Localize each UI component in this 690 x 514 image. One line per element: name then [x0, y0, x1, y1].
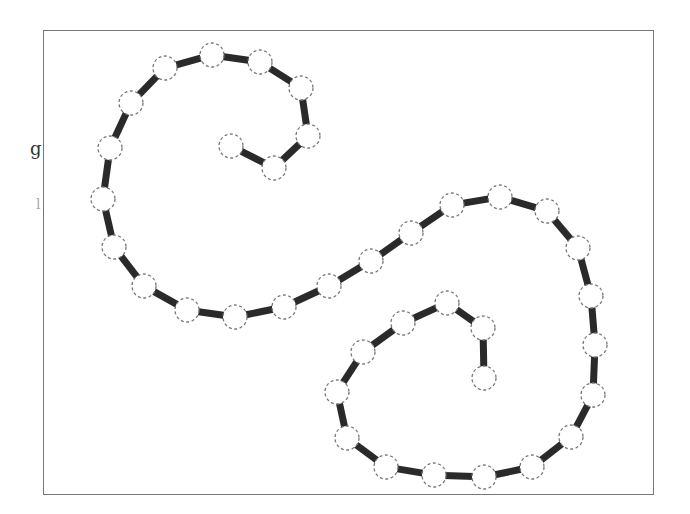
chain-node: [102, 235, 126, 259]
connector-segment: [592, 306, 594, 335]
chain-node: [566, 236, 590, 260]
connector-segment: [245, 309, 274, 315]
chain-node: [440, 193, 464, 217]
connector-segment: [175, 58, 203, 66]
connector-segment: [455, 309, 475, 323]
connector-segment: [593, 355, 594, 385]
connector-segment: [153, 291, 179, 305]
chain-node: [132, 274, 156, 298]
connector-segment: [494, 469, 522, 475]
chain-node: [296, 124, 320, 148]
connector-segment: [581, 258, 589, 287]
connector-segment: [114, 112, 127, 139]
connector-segment: [105, 209, 112, 238]
connector-segment: [540, 443, 563, 461]
chain-node: [175, 298, 199, 322]
connector-segment: [281, 143, 300, 161]
chain-node: [219, 134, 243, 158]
connector-segment: [576, 404, 589, 428]
connector-segment: [396, 469, 424, 474]
chain-node: [471, 316, 495, 340]
chain-node: [153, 56, 177, 80]
chain-node: [351, 340, 375, 364]
connector-segment: [371, 329, 395, 346]
connector-segment: [444, 475, 474, 476]
connector-segment: [483, 338, 484, 368]
chain-node: [200, 43, 224, 67]
connector-segment: [553, 219, 571, 241]
connector-segment: [240, 151, 265, 164]
chain-node: [583, 333, 607, 357]
chain-node: [335, 426, 359, 450]
chain-node: [472, 465, 496, 489]
connector-segment: [355, 444, 378, 461]
chain-node: [422, 463, 446, 487]
connector-segment: [338, 266, 363, 281]
chain-node: [91, 187, 115, 211]
chain-node: [98, 136, 122, 160]
connector-segment: [419, 211, 443, 228]
chain-node: [289, 76, 313, 100]
chain-node: [535, 199, 559, 223]
connector-segment: [222, 56, 250, 60]
chain-node: [472, 366, 496, 390]
connector-segment: [342, 360, 357, 383]
chain-node: [317, 274, 341, 298]
connector-segment: [268, 67, 292, 82]
chain-node: [359, 249, 383, 273]
chain-node: [325, 380, 349, 404]
connector-segment: [138, 75, 158, 96]
connector-segment: [104, 158, 108, 189]
chain-node: [520, 455, 544, 479]
chain-node: [248, 50, 272, 74]
connector-segment: [120, 255, 138, 278]
connector-segment: [293, 290, 320, 303]
connector-segment: [302, 98, 306, 126]
chain-node: [391, 311, 415, 335]
chain-node: [223, 305, 247, 329]
chain-node: [435, 291, 459, 315]
connector-segment: [197, 311, 225, 315]
chain-node: [581, 383, 605, 407]
chain-node: [272, 295, 296, 319]
connector-segment: [339, 402, 345, 428]
chain-node: [399, 221, 423, 245]
connector-segment: [462, 199, 490, 204]
connector-segment: [510, 200, 538, 208]
chain-node: [119, 91, 143, 115]
chain-node: [262, 156, 286, 180]
connector-segment: [379, 239, 403, 256]
chain-node: [374, 455, 398, 479]
spiral-chain-diagram: [0, 0, 690, 514]
chain-node: [559, 425, 583, 449]
chain-node: [488, 185, 512, 209]
chain-node: [579, 284, 603, 308]
connector-segment: [412, 307, 438, 319]
